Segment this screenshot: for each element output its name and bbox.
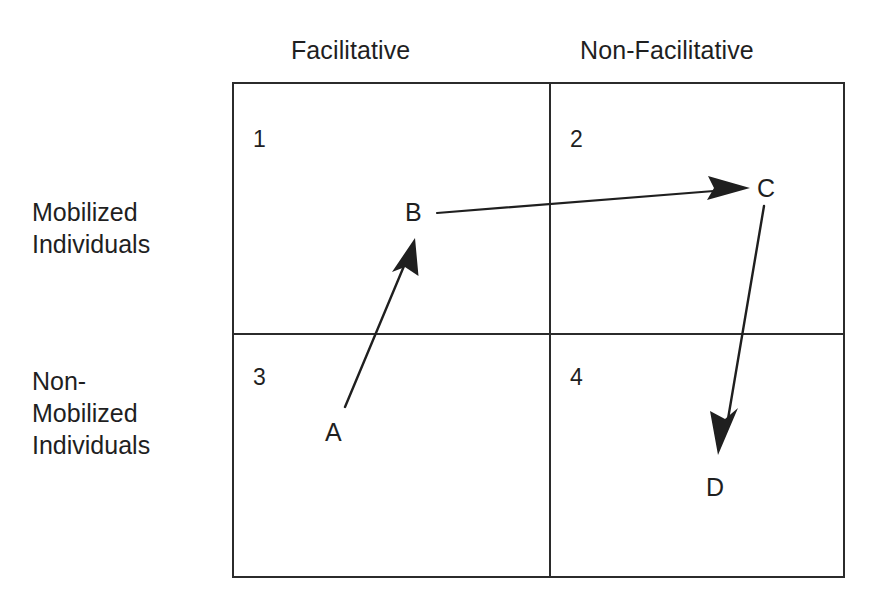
row-label-mobilized-individuals: Mobilized Individuals [32, 196, 150, 260]
node-label-b: B [405, 200, 422, 225]
matrix-vertical-divider [549, 84, 551, 576]
column-header-facilitative: Facilitative [291, 38, 410, 63]
quadrant-number-3: 3 [253, 366, 266, 389]
quadrant-number-2: 2 [570, 128, 583, 151]
matrix-horizontal-divider [234, 333, 843, 335]
column-header-non-facilitative: Non-Facilitative [580, 38, 754, 63]
node-label-a: A [325, 420, 342, 445]
node-label-d: D [706, 475, 724, 500]
node-label-c: C [757, 176, 775, 201]
matrix-frame: 1 2 3 4 [232, 82, 845, 578]
quadrant-number-1: 1 [253, 128, 266, 151]
diagram-canvas: Facilitative Non-Facilitative Mobilized … [0, 0, 876, 600]
row-label-non-mobilized-individuals: Non- Mobilized Individuals [32, 365, 150, 461]
quadrant-number-4: 4 [570, 366, 583, 389]
